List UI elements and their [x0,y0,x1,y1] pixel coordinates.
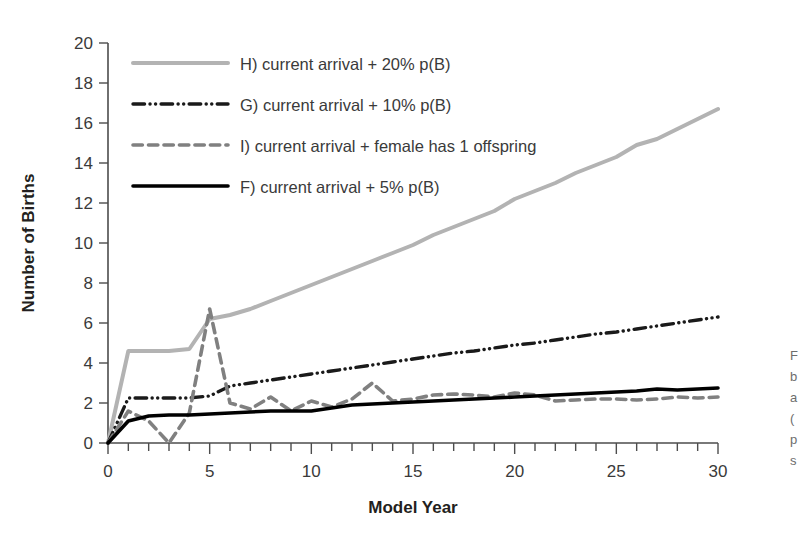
caption-fragment-line: ( [790,411,795,426]
x-tick-label: 30 [709,462,728,481]
x-tick-label: 10 [302,462,321,481]
caption-fragment-line: b [790,369,797,384]
caption-fragment-line: F [790,348,798,363]
caption-fragment: Fba(ps [790,348,798,468]
y-tick-label: 14 [74,154,93,173]
series-line-I [108,309,718,443]
y-axis-title: Number of Births [19,174,38,313]
chart-legend: H) current arrival + 20% p(B)G) current … [133,55,536,196]
legend-label-G: G) current arrival + 10% p(B) [240,96,451,114]
y-tick-label: 4 [84,354,93,373]
legend-label-H: H) current arrival + 20% p(B) [240,55,450,73]
legend-label-F: F) current arrival + 5% p(B) [240,178,439,196]
y-tick-label: 16 [74,114,93,133]
births-line-chart: 02468101214161820051015202530Model YearN… [0,0,805,550]
x-tick-label: 15 [404,462,423,481]
x-tick-label: 25 [607,462,626,481]
legend-label-I: I) current arrival + female has 1 offspr… [240,137,536,155]
x-tick-label: 0 [103,462,112,481]
y-tick-label: 12 [74,194,93,213]
series-group [108,109,718,443]
y-tick-label: 2 [84,394,93,413]
y-tick-label: 0 [84,434,93,453]
x-tick-label: 5 [205,462,214,481]
caption-fragment-line: p [790,432,797,447]
y-tick-label: 8 [84,274,93,293]
x-axis: 051015202530 [103,443,727,481]
x-tick-label: 20 [505,462,524,481]
caption-fragment-line: s [790,453,797,468]
y-tick-label: 18 [74,74,93,93]
y-tick-label: 10 [74,234,93,253]
y-axis: 02468101214161820 [74,34,108,453]
y-tick-label: 6 [84,314,93,333]
y-tick-label: 20 [74,34,93,53]
x-axis-title: Model Year [368,498,458,517]
figure-container: 02468101214161820051015202530Model YearN… [0,0,805,550]
caption-fragment-line: a [790,390,798,405]
